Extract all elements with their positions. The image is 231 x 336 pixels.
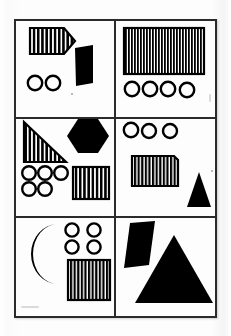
shape-grid-sheet: [14, 19, 217, 318]
panel-top-left-shapes: [16, 21, 116, 119]
panel-top-left[interactable]: [16, 21, 116, 119]
circle-outline-3: [65, 240, 78, 253]
circle-outline-2: [142, 82, 156, 96]
scan-speck: [71, 93, 73, 95]
circle-outline-2: [38, 167, 52, 181]
black-triangle-small-shape: [187, 172, 211, 207]
panel-bottom-left[interactable]: [16, 218, 116, 316]
black-parallelogram-shape: [124, 221, 155, 268]
circle-outline-1: [65, 223, 78, 236]
circle-outline-2: [142, 124, 156, 138]
circle-outline-3: [54, 167, 68, 181]
panel-bottom-left-shapes: [16, 218, 116, 316]
circle-outline-1: [22, 167, 36, 181]
panel-top-right[interactable]: [116, 21, 216, 119]
circle-outline-2: [87, 223, 100, 236]
circle-outline-4: [87, 240, 100, 253]
striped-pentagon-shape: [30, 28, 75, 54]
scan-smudge: [21, 306, 39, 308]
panel-middle-left-shapes: [16, 119, 116, 217]
circle-outline-5: [38, 183, 52, 197]
striped-right-triangle-shape: [24, 122, 66, 162]
circle-outline-4: [22, 183, 36, 197]
circle-outline-2: [46, 76, 60, 90]
circle-outline-1: [124, 82, 138, 96]
circle-outline-4: [179, 83, 193, 97]
black-quadrilateral-shape: [75, 45, 93, 86]
panel-middle-left[interactable]: [16, 119, 116, 217]
black-hexagon-shape: [67, 119, 109, 153]
circle-outline-1: [123, 123, 137, 137]
striped-rectangle-clipped-shape: [132, 156, 178, 186]
circle-outline-3: [160, 82, 174, 96]
panel-middle-right-shapes: [116, 119, 216, 217]
panel-top-right-shapes: [116, 21, 216, 119]
page-canvas: [0, 0, 231, 336]
striped-square-shape: [68, 260, 110, 300]
circle-outline-3: [163, 124, 177, 138]
striped-rectangle-large-shape: [124, 28, 204, 74]
black-crescent-moon-shape: [31, 224, 58, 284]
striped-square-shape: [73, 167, 109, 199]
panel-bottom-right[interactable]: [116, 218, 216, 316]
panel-middle-right[interactable]: [116, 119, 216, 217]
scan-edge-mark: [209, 94, 211, 102]
circle-outline-1: [28, 76, 42, 90]
panel-bottom-right-shapes: [116, 218, 216, 316]
